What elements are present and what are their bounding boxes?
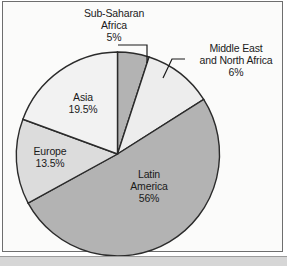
pie-label-sub-saharan-africa: Sub-Saharan Africa 5% xyxy=(60,7,168,44)
pie-label-latin-america: Latin America 56% xyxy=(112,168,186,205)
pie-label-asia: Asia 19.5% xyxy=(47,91,119,115)
pie-label-middle-east-north-africa: Middle East and North Africa 6% xyxy=(186,42,286,79)
pie-label-line-1: Latin xyxy=(112,168,186,180)
pie-label-europe: Europe 13.5% xyxy=(10,145,90,169)
pie-label-line-2: Africa xyxy=(60,19,168,31)
pie-chart-figure: Sub-Saharan Africa 5% Middle East and No… xyxy=(0,0,287,277)
pie-label-line-2: America xyxy=(112,180,186,192)
pie-label-percent: 6% xyxy=(186,66,286,78)
pie-label-line-1: Asia xyxy=(47,91,119,103)
pie-label-line-1: Middle East xyxy=(186,42,286,54)
page-edge-white xyxy=(0,266,287,277)
pie-label-line-1: Sub-Saharan xyxy=(60,7,168,19)
pie-label-percent: 19.5% xyxy=(47,103,119,115)
pie-label-line-2: and North Africa xyxy=(186,54,286,66)
pie-label-percent: 13.5% xyxy=(10,157,90,169)
pie-label-line-1: Europe xyxy=(10,145,90,157)
pie-label-percent: 56% xyxy=(112,192,186,204)
pie-label-percent: 5% xyxy=(60,31,168,43)
